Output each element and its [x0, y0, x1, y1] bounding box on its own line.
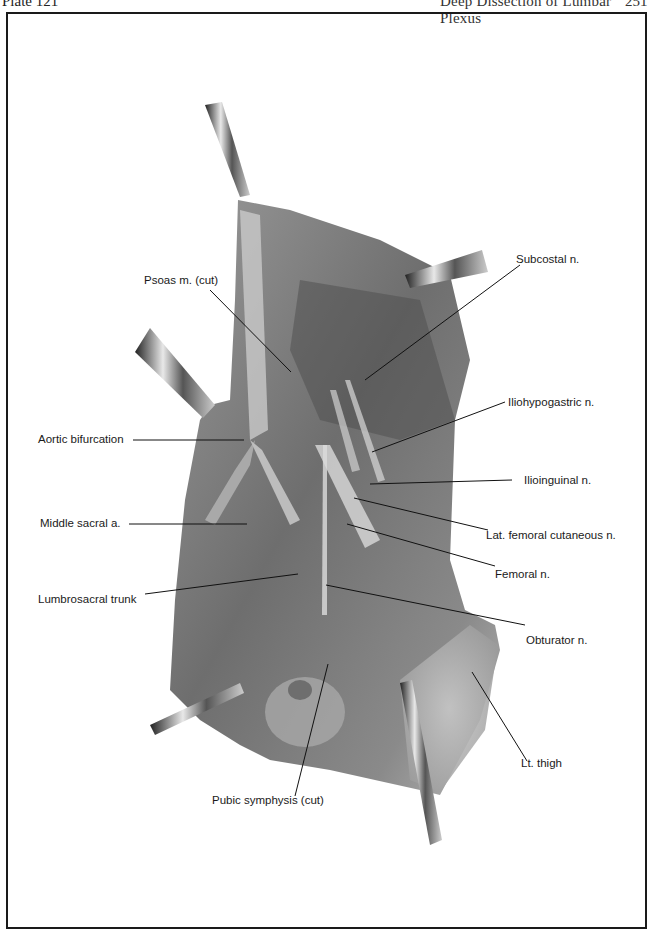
label-lt-thigh: Lt. thigh	[521, 757, 562, 769]
label-ilioinguinal-nerve: Ilioinguinal n.	[524, 474, 591, 486]
label-aortic-bifurcation: Aortic bifurcation	[38, 433, 124, 445]
label-obturator-nerve: Obturator n.	[526, 634, 587, 646]
dissection-photo	[0, 0, 651, 929]
label-femoral-nerve: Femoral n.	[495, 568, 550, 580]
label-pubic-symphysis: Pubic symphysis (cut)	[212, 794, 324, 806]
label-subcostal-nerve: Subcostal n.	[516, 253, 579, 265]
label-iliohypogastric-nerve: Iliohypogastric n.	[508, 396, 594, 408]
label-psoas: Psoas m. (cut)	[144, 274, 218, 286]
label-lat-femoral-cutaneous-nerve: Lat. femoral cutaneous n.	[486, 529, 616, 541]
label-middle-sacral-artery: Middle sacral a.	[40, 517, 121, 529]
label-lumbrosacral-trunk: Lumbrosacral trunk	[38, 593, 136, 605]
retractor-left	[135, 328, 215, 418]
retractor-top	[205, 102, 250, 197]
